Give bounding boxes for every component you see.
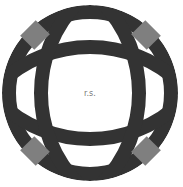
center-label: r.s. <box>84 89 96 98</box>
ring-block-diagram: r.s. <box>0 0 183 187</box>
